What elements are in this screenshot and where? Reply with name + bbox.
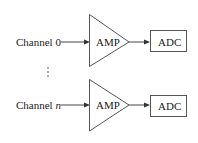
channel-row-0: Channel 0 AMP ADC xyxy=(16,15,187,67)
amp-label-0: AMP xyxy=(96,36,120,48)
vertical-ellipsis xyxy=(47,67,49,77)
arrowhead-icon xyxy=(144,40,150,45)
channel-row-n: Channel n AMP ADC xyxy=(16,80,187,132)
amp-label-n: AMP xyxy=(96,99,120,111)
channel-n-label: Channel n xyxy=(16,99,61,111)
channel-0-label: Channel 0 xyxy=(16,36,61,48)
adc-label-0: ADC xyxy=(158,36,181,48)
adc-label-n: ADC xyxy=(158,100,181,112)
arrowhead-icon xyxy=(144,103,150,108)
multichannel-adc-diagram: Channel 0 AMP ADC Channel n AMP A xyxy=(0,0,198,143)
